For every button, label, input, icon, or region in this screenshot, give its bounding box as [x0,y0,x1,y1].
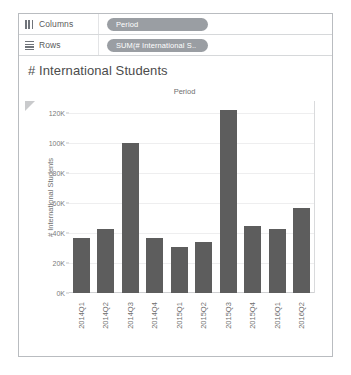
bar-mark[interactable] [171,247,188,294]
bar-slot [167,101,192,293]
rows-pill-sum-international-students[interactable]: SUM(# International S.. [107,39,208,52]
rows-shelf[interactable]: Rows SUM(# International S.. [19,35,332,56]
x-tick-label-slot: 2015Q4 [241,295,266,351]
bar-slot [241,101,266,293]
bar-slot [265,101,290,293]
bar-slot [118,101,143,293]
x-tick-label-slot: 2014Q4 [143,295,168,351]
y-tick-label: 80K [53,170,65,177]
x-tick-label-slot: 2016Q1 [265,295,290,351]
x-tick-label-slot: 2015Q2 [192,295,217,351]
visualization-card: Columns Period Rows SUM(# International … [18,13,333,357]
rows-shelf-dropzone[interactable]: SUM(# International S.. [99,35,332,55]
bar-mark[interactable] [220,110,237,293]
x-tick-label: 2015Q4 [248,302,257,329]
bar-slot [192,101,217,293]
bar-mark[interactable] [122,143,139,293]
bar-slot [290,101,315,293]
x-tick-label: 2015Q3 [224,302,233,329]
bar-mark[interactable] [195,242,212,293]
bar-mark[interactable] [293,208,310,294]
y-tick-label: 20K [53,260,65,267]
y-tick-label: 60K [53,200,65,207]
chart-title: # International Students [28,63,168,78]
x-tick-label-slot: 2015Q1 [167,295,192,351]
columns-pill-period[interactable]: Period [107,18,208,31]
x-tick-label: 2015Q2 [199,302,208,329]
chart-area: # International Students Period # Intern… [19,56,332,356]
bar-mark[interactable] [97,229,114,294]
x-tick-label: 2014Q3 [126,302,135,329]
columns-shelf-text: Columns [39,19,73,29]
columns-shelf-label: Columns [19,14,99,34]
x-tick-label-slot: 2015Q3 [216,295,241,351]
bar-slot [69,101,94,293]
bar-mark[interactable] [73,238,90,294]
x-tick-label-slot: 2014Q1 [69,295,94,351]
collapse-triangle-icon[interactable] [25,101,35,111]
x-tick-label: 2014Q2 [101,302,110,329]
x-tick-label: 2014Q1 [77,302,86,329]
bar-mark[interactable] [146,238,163,294]
y-tick-label: 100K [49,140,65,147]
x-tick-label-slot: 2014Q2 [94,295,119,351]
plot-right-border [314,101,315,293]
plot-region: 0K20K40K60K80K100K120K [69,101,314,293]
bar-slot [216,101,241,293]
rows-icon [25,41,34,50]
y-tick-label: 120K [49,110,65,117]
bar-slot [94,101,119,293]
bar-mark[interactable] [269,229,286,294]
rows-shelf-label: Rows [19,35,99,55]
x-tick-label: 2016Q1 [273,302,282,329]
y-tick-label: 0K [56,290,65,297]
x-tick-label: 2014Q4 [150,302,159,329]
x-tick-label: 2016Q2 [297,302,306,329]
columns-shelf[interactable]: Columns Period [19,14,332,35]
bar-mark[interactable] [244,226,261,294]
rows-shelf-text: Rows [39,40,61,50]
x-tick-label-slot: 2014Q3 [118,295,143,351]
x-tick-label-slot: 2016Q2 [290,295,315,351]
y-tick-label: 40K [53,230,65,237]
bar-slot [143,101,168,293]
column-header-period: Period [19,87,332,96]
x-tick-label: 2015Q1 [175,302,184,329]
columns-shelf-dropzone[interactable]: Period [99,14,332,34]
columns-icon [25,20,34,29]
